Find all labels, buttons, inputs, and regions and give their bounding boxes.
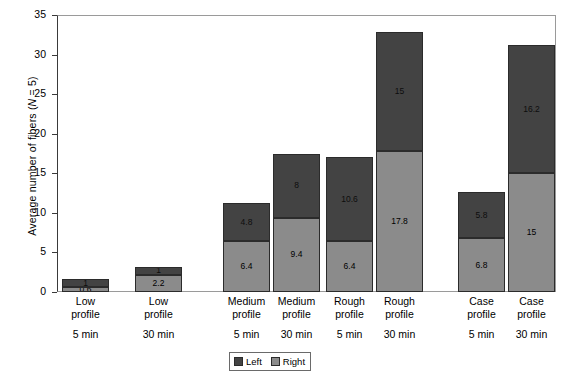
bar-segment-left[interactable]: 8 — [273, 154, 320, 217]
y-axis-tick-mark — [52, 292, 57, 293]
x-axis-label-profile: Case — [519, 295, 544, 307]
x-axis-label-time: 30 min — [499, 328, 564, 341]
bar-segment-left[interactable]: 16.2 — [508, 45, 555, 173]
bar-value-label: 15 — [395, 87, 404, 96]
bar-column[interactable]: 0.61 — [62, 279, 109, 292]
bar-column[interactable]: 6.410.6 — [326, 157, 373, 292]
x-axis-label: Caseprofile30 min — [499, 295, 564, 341]
y-axis-tick-label: 30 — [34, 48, 46, 61]
bar-segment-left[interactable]: 5.8 — [458, 192, 505, 238]
x-axis-label-profile: Low — [149, 295, 168, 307]
legend-swatch-left-icon — [234, 357, 243, 366]
y-axis-title: Average number of fibers (N = 5) — [26, 36, 38, 276]
bar-segment-right[interactable]: 6.4 — [223, 241, 270, 292]
bar-segment-left[interactable]: 10.6 — [326, 157, 373, 241]
bar-column[interactable]: 1516.2 — [508, 45, 555, 292]
bar-value-label: 15 — [527, 228, 536, 237]
bar-segment-right[interactable]: 2.2 — [135, 275, 182, 292]
x-axis-label-profile: Low — [76, 295, 95, 307]
y-axis-tick-label: 10 — [34, 206, 46, 219]
bar-value-label: 4.8 — [241, 218, 253, 227]
bar-value-label: 6.4 — [344, 262, 356, 271]
bar-segment-right[interactable]: 15 — [508, 173, 555, 292]
x-axis-label-profile: Medium — [278, 295, 315, 307]
bar-segment-right[interactable]: 0.6 — [62, 287, 109, 292]
bar-column[interactable]: 6.44.8 — [223, 203, 270, 292]
bar-value-label: 2.2 — [153, 279, 165, 288]
bar-value-label: 10.6 — [341, 195, 358, 204]
legend-item-left[interactable]: Left — [234, 357, 262, 367]
bar-value-label: 1 — [156, 267, 161, 275]
x-axis-label-profile-word: profile — [367, 308, 432, 321]
x-axis-label-time: 30 min — [367, 328, 432, 341]
bar-segment-right[interactable]: 9.4 — [273, 218, 320, 292]
x-axis-label-profile: Case — [469, 295, 494, 307]
bar-value-label: 6.4 — [241, 262, 253, 271]
y-axis-tick-label: 5 — [40, 245, 46, 258]
bar-segment-right[interactable]: 6.4 — [326, 241, 373, 292]
y-axis-tick-label: 35 — [34, 8, 46, 21]
bar-value-label: 6.8 — [476, 261, 488, 270]
legend-label-left: Left — [246, 357, 262, 367]
bar-column[interactable]: 17.815 — [376, 32, 423, 292]
x-axis-label: Lowprofile5 min — [53, 295, 118, 341]
bar-value-label: 16.2 — [523, 105, 540, 114]
chart-legend: Left Right — [229, 352, 311, 371]
bar-chart-figure: Average number of fibers (N = 5) 0510152… — [0, 0, 573, 380]
bars-layer: 0.612.216.44.89.486.410.617.8156.85.8151… — [57, 15, 556, 292]
x-axis-label-profile: Medium — [228, 295, 265, 307]
legend-swatch-right-icon — [271, 357, 280, 366]
bar-value-label: 0.6 — [80, 287, 92, 292]
bar-segment-left[interactable]: 1 — [135, 267, 182, 275]
bar-value-label: 5.8 — [476, 211, 488, 220]
bar-value-label: 17.8 — [391, 217, 408, 226]
bar-segment-left[interactable]: 4.8 — [223, 203, 270, 241]
x-axis-label-time: 5 min — [53, 328, 118, 341]
x-axis-label: Roughprofile30 min — [367, 295, 432, 341]
x-axis-label-time: 30 min — [126, 328, 191, 341]
x-axis-label-profile-word: profile — [53, 308, 118, 321]
x-axis-label: Lowprofile30 min — [126, 295, 191, 341]
bar-segment-right[interactable]: 17.8 — [376, 151, 423, 292]
bar-column[interactable]: 6.85.8 — [458, 192, 505, 292]
bar-value-label: 8 — [294, 181, 299, 190]
y-axis-tick-label: 15 — [34, 166, 46, 179]
bar-value-label: 1 — [83, 279, 88, 287]
legend-label-right: Right — [283, 357, 305, 367]
bar-column[interactable]: 9.48 — [273, 154, 320, 292]
x-axis-label-profile-word: profile — [126, 308, 191, 321]
bar-value-label: 9.4 — [291, 250, 303, 259]
bar-segment-left[interactable]: 1 — [62, 279, 109, 287]
legend-item-right[interactable]: Right — [271, 357, 305, 367]
bar-column[interactable]: 2.21 — [135, 267, 182, 292]
y-axis-tick-label: 25 — [34, 87, 46, 100]
y-axis-tick-label: 0 — [40, 285, 46, 298]
bar-segment-left[interactable]: 15 — [376, 32, 423, 151]
y-axis-tick-label: 20 — [34, 127, 46, 140]
x-axis-label-profile-word: profile — [499, 308, 564, 321]
x-axis-label-profile: Rough — [384, 295, 415, 307]
x-axis-label-profile: Rough — [334, 295, 365, 307]
bar-segment-right[interactable]: 6.8 — [458, 238, 505, 292]
x-axis-labels: Lowprofile5 minLowprofile30 minMediumpro… — [57, 295, 556, 343]
